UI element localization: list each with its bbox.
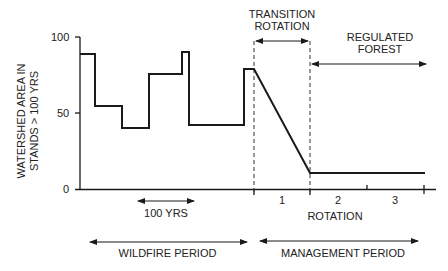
y-axis-label: WATERSHED AREA IN STANDS > 100 YRS	[15, 54, 41, 189]
scale-bar-label: 100 YRS	[126, 207, 206, 219]
management-period-label: MANAGEMENT PERIOD	[268, 247, 418, 259]
transition-label: TRANSITION ROTATION	[240, 8, 324, 32]
x-tick-2: 2	[335, 194, 341, 206]
regulated-forest-label-line-2: FOREST	[338, 43, 422, 55]
y-axis-label-line-1: WATERSHED AREA IN	[15, 54, 28, 189]
wildfire-period-label: WILDFIRE PERIOD	[100, 247, 235, 259]
x-axis	[75, 185, 436, 195]
transition-label-line-2: ROTATION	[240, 20, 324, 32]
rotation-dividers	[254, 41, 310, 195]
x-tick-1: 1	[279, 194, 285, 206]
regulated-forest-label: REGULATED FOREST	[338, 31, 422, 55]
x-axis-label: ROTATION	[290, 210, 380, 222]
y-tick-100: 100	[51, 31, 69, 43]
y-axis-label-line-2: STANDS > 100 YRS	[28, 54, 41, 189]
regulated-forest-label-line-1: REGULATED	[338, 31, 422, 43]
y-tick-50: 50	[57, 107, 69, 119]
data-series-line	[80, 52, 425, 173]
y-tick-0: 0	[63, 183, 69, 195]
x-tick-3: 3	[392, 194, 398, 206]
transition-label-line-1: TRANSITION	[240, 8, 324, 20]
y-axis	[75, 37, 80, 190]
